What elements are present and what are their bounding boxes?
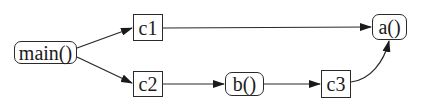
node-main-label: main() bbox=[19, 43, 72, 63]
edge-c1-a bbox=[163, 27, 371, 28]
node-a-label: a() bbox=[378, 17, 400, 37]
node-c3: c3 bbox=[321, 70, 351, 98]
edge-main-c1 bbox=[77, 28, 132, 48]
edge-main-c2 bbox=[77, 57, 132, 83]
edge-c3-a bbox=[351, 41, 389, 82]
node-c1: c1 bbox=[133, 14, 163, 41]
node-main: main() bbox=[14, 41, 77, 64]
node-c2-label: c2 bbox=[139, 74, 158, 94]
node-b: b() bbox=[225, 72, 264, 96]
node-c2: c2 bbox=[133, 71, 163, 97]
node-c1-label: c1 bbox=[139, 18, 158, 38]
node-a: a() bbox=[372, 14, 407, 40]
node-b-label: b() bbox=[233, 74, 256, 94]
node-c3-label: c3 bbox=[327, 74, 346, 94]
